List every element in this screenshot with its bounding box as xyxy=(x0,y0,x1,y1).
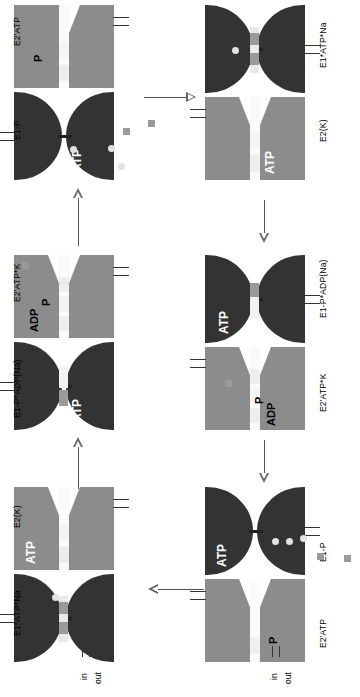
ion-na xyxy=(232,47,239,54)
state-label-e2-k: E2(K) xyxy=(12,505,22,528)
antenna-line xyxy=(304,527,320,528)
state-e1-atp-na: ATP xyxy=(14,487,114,662)
ion-na xyxy=(70,146,77,153)
antenna-line xyxy=(113,267,129,268)
antenna-line xyxy=(113,275,129,276)
figure-canvas: ATP P E2'ATP E1-P xyxy=(0,0,360,697)
ion-na xyxy=(300,535,307,542)
state-e1-p-adp-na-r: ADP P ATP xyxy=(205,255,305,430)
arrow-right-top xyxy=(144,92,200,104)
antenna-line xyxy=(113,507,129,508)
axis-label-in-right: in xyxy=(269,673,279,680)
arrow-left-bottom xyxy=(144,584,204,596)
antenna-line xyxy=(190,109,206,110)
ion-na xyxy=(108,145,115,152)
antenna-line xyxy=(113,499,129,500)
state-label-e2-atp: E2'ATP xyxy=(12,17,22,46)
antenna-line xyxy=(0,140,15,141)
state-label-e2-atp-r: E2'ATP xyxy=(318,619,328,648)
ligand-adp-label: ADP xyxy=(28,309,40,332)
ion-na xyxy=(118,163,125,170)
arrow-down-right-upper xyxy=(258,200,272,246)
state-label-e2-atp-k: E2'ATP*K xyxy=(12,264,22,303)
state-e2-k: ATP xyxy=(205,5,305,180)
state-label-e1-p-adp-na-r: E1-P*ADP(Na) xyxy=(318,259,328,318)
ligand-p-label: P xyxy=(40,299,52,306)
ion-k xyxy=(148,120,155,127)
ion-k xyxy=(123,128,130,135)
ligand-p-label: P xyxy=(32,55,44,62)
axis-label-in: in xyxy=(79,673,89,680)
state-label-e1-atp-na-r: E1*ATP*Na xyxy=(318,22,328,68)
ion-na xyxy=(286,538,293,545)
antenna-line xyxy=(190,599,206,600)
antenna-line xyxy=(113,17,129,18)
ion-na xyxy=(272,538,279,545)
state-label-e1-p-adp-na: E1-P*ADP(Na) xyxy=(12,359,22,418)
ligand-atp-label: ATP xyxy=(70,399,84,422)
state-label-e1-p: E1-P xyxy=(12,120,22,140)
arrow-up-left-lower xyxy=(72,437,86,489)
state-label-e1-atp-na: E1*ATP*Na xyxy=(12,590,22,636)
state-label-e2-k-r: E2(K) xyxy=(318,119,328,142)
ion-k xyxy=(317,553,324,560)
ion-k xyxy=(22,262,29,269)
antenna-line xyxy=(190,117,206,118)
ligand-p-label: P xyxy=(267,637,279,644)
state-e1-p-adp-na: ATP ADP P xyxy=(14,255,114,430)
axis-label-out: out xyxy=(93,672,103,684)
state-e1-p: ATP P xyxy=(14,5,114,180)
ligand-p-label: P xyxy=(253,397,265,404)
state-label-e2-atp-k-r: E2'ATP*K xyxy=(318,374,328,413)
antenna-line xyxy=(190,367,206,368)
ion-na xyxy=(52,594,59,601)
arrow-up-left-upper xyxy=(72,188,86,246)
state-e1-p-r: P ATP xyxy=(205,487,305,662)
ion-k xyxy=(225,380,232,387)
ligand-atp-label: ATP xyxy=(217,311,231,334)
axis-label-out-right: out xyxy=(283,672,293,684)
ligand-atp-label: ATP xyxy=(24,541,38,564)
ion-k xyxy=(344,555,351,562)
antenna-line xyxy=(113,25,129,26)
arrow-down-right-lower xyxy=(258,440,272,486)
ligand-atp-label: ATP xyxy=(215,544,229,567)
antenna-line xyxy=(190,359,206,360)
ligand-atp-label: ATP xyxy=(263,151,277,174)
ligand-adp-label: ADP xyxy=(265,403,277,426)
